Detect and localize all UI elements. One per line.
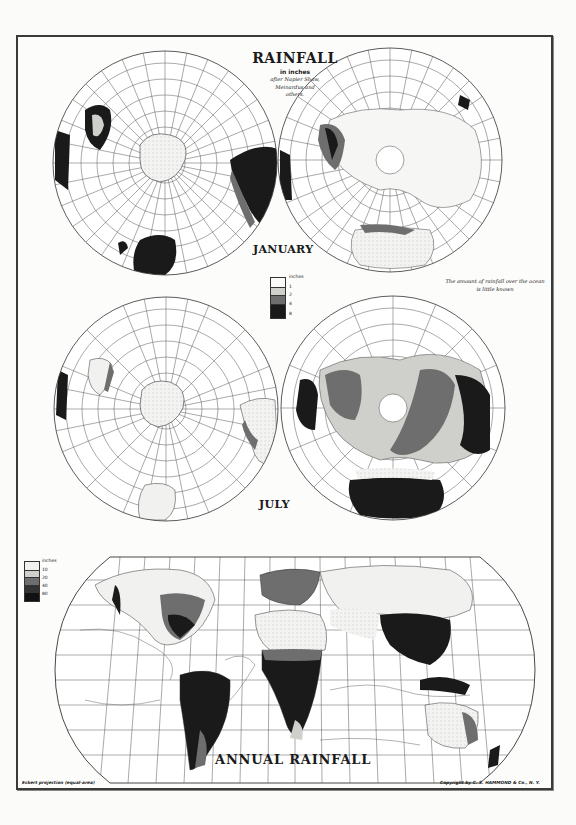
legend-swatch-4 [24,592,40,602]
note-line-1: The amount of rainfall over the ocean [430,278,560,286]
credit-line-2: Meinardus and [240,84,350,92]
legend-value-4: 4 [289,301,292,306]
legend-value-1: 1 [289,284,292,289]
map-subtitle: in inches [240,68,350,75]
legend-value-8: 8 [289,311,292,316]
legend-unit: inches [42,558,57,563]
credit-line-3: others. [240,91,350,99]
credit-line-1: after Napier Shaw, [240,76,350,84]
legend-value-2: 2 [289,292,292,297]
legend-value-80: 80 [42,591,48,596]
projection-note: Eckert projection (equal-area) [22,780,95,785]
map-title: RAINFALL [250,50,340,66]
legend-unit: inches [289,274,304,279]
january-label: JANUARY [253,243,313,256]
legend-value-20: 20 [42,575,48,580]
legend-value-40: 40 [42,583,48,588]
note-line-2: is little known [430,286,560,294]
july-south-hemisphere [54,297,278,521]
rainfall-maps [0,0,576,825]
annual-rainfall-label: ANNUAL RAINFALL [215,752,371,767]
copyright-note: Copyright by C. S. HAMMOND & Co., N. Y. [440,780,540,785]
july-north-hemisphere [281,296,505,520]
ocean-rainfall-note: The amount of rainfall over the ocean is… [430,278,560,293]
legend-value-10: 10 [42,567,48,572]
map-credit: after Napier Shaw, Meinardus and others. [240,76,350,99]
annual-world-map [55,557,535,783]
july-label: JULY [259,498,290,511]
legend-swatch-3 [270,304,286,319]
